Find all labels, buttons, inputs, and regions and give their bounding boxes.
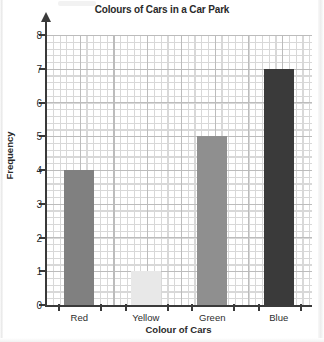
x-axis-tick	[300, 304, 302, 311]
y-tick-label-5: 5	[20, 131, 42, 142]
x-axis-title: Colour of Cars	[45, 324, 312, 335]
x-axis-tick	[58, 304, 60, 311]
scan-edge-right	[318, 0, 324, 342]
y-tick-label-8: 8	[20, 30, 42, 41]
scan-edge-bottom	[0, 338, 324, 342]
x-axis-tick	[100, 304, 102, 311]
y-tick-label-7: 7	[20, 64, 42, 75]
x-axis-tick	[233, 304, 235, 311]
bar-series	[46, 35, 312, 305]
y-tick-label-1: 1	[20, 266, 42, 277]
chart-page: Colours of Cars in a Car Park 012345678 …	[0, 0, 324, 342]
x-tick-label-red: Red	[49, 312, 109, 323]
y-axis-arrow-icon	[41, 12, 51, 22]
x-axis-tick	[125, 304, 127, 311]
bar-blue	[264, 69, 294, 305]
plot-area	[46, 35, 312, 305]
x-axis-line	[45, 305, 312, 307]
bar-green	[197, 136, 227, 305]
y-tick-label-6: 6	[20, 98, 42, 109]
y-axis-title: Frequency	[4, 126, 15, 186]
x-axis-tick	[191, 304, 193, 311]
x-tick-label-yellow: Yellow	[116, 312, 176, 323]
x-tick-label-blue: Blue	[249, 312, 309, 323]
x-axis-tick	[167, 304, 169, 311]
y-tick-label-4: 4	[20, 165, 42, 176]
x-axis-tick	[258, 304, 260, 311]
bar-yellow	[131, 271, 161, 305]
x-tick-label-green: Green	[182, 312, 242, 323]
bar-red	[64, 170, 94, 305]
y-tick-label-3: 3	[20, 199, 42, 210]
y-axis-line	[45, 20, 47, 307]
y-tick-label-2: 2	[20, 233, 42, 244]
y-tick-label-0: 0	[20, 300, 42, 311]
